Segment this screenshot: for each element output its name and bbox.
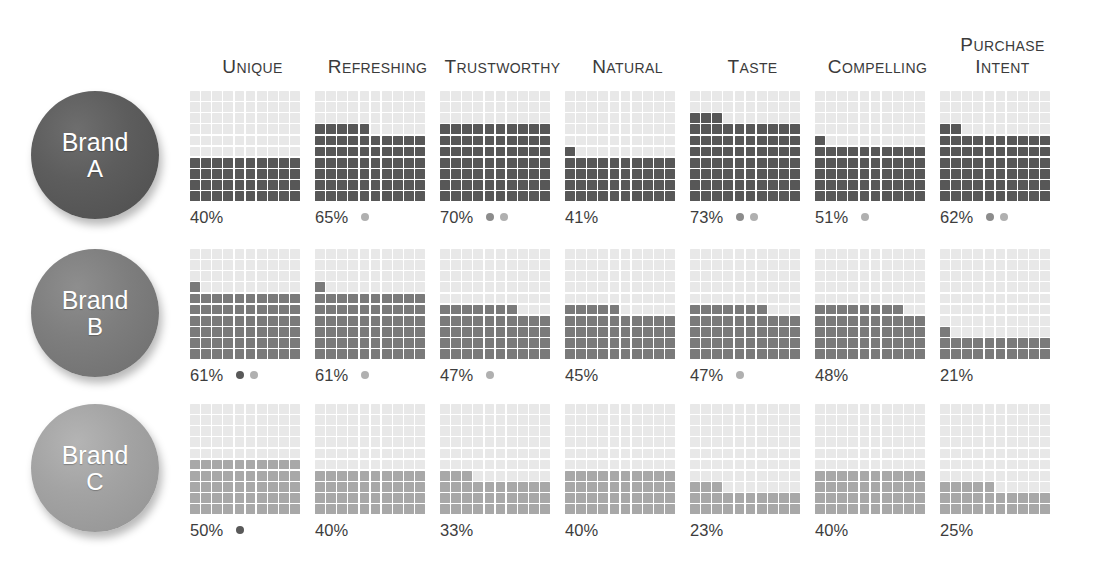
waffle-square-empty [1007,415,1017,425]
waffle-square-empty [190,136,200,146]
waffle-square-empty [665,102,675,112]
waffle-square-empty [496,404,506,414]
waffle-square-empty [882,113,892,123]
waffle-square-filled [382,191,392,201]
waffle-square-empty [473,437,483,447]
waffle-square-empty [393,113,403,123]
waffle-square-filled [393,147,403,157]
header-corner-spacer [0,0,190,85]
waffle-square-filled [576,504,586,514]
waffle-square-filled [746,158,756,168]
waffle-square-filled [360,180,370,190]
waffle-square-empty [632,91,642,101]
waffle-square-empty [565,282,575,292]
waffle-square-empty [893,426,903,436]
header-initial-cap: T [444,56,456,77]
waffle-square-empty [882,404,892,414]
waffle-square-empty [690,294,700,304]
waffle-square-empty [326,113,336,123]
waffle-square-empty [212,102,222,112]
waffle-square-filled [576,327,586,337]
waffle-square-filled [393,338,403,348]
waffle-square-empty [915,249,925,259]
waffle-square-empty [576,124,586,134]
waffle-square-empty [440,426,450,436]
waffle-square-filled [587,305,597,315]
waffle-square-empty [973,294,983,304]
waffle-square-empty [326,426,336,436]
waffle-square-filled [893,493,903,503]
waffle-square-filled [415,471,425,481]
waffle-square-filled [643,482,653,492]
waffle-square-empty [837,460,847,470]
waffle-square-filled [712,180,722,190]
waffle-square-filled [757,191,767,201]
waffle-square-filled [1007,169,1017,179]
waffle-square-filled [496,191,506,201]
waffle-square-empty [257,404,267,414]
waffle-square-empty [746,271,756,281]
brand-metrics-waffle-chart: UNIQUEREFRESHINGTRUSTWORTHYNATURALTASTEC… [0,0,1106,573]
waffle-square-empty [951,426,961,436]
waffle-square-empty [723,249,733,259]
waffle-square-empty [540,282,550,292]
waffle-square-empty [279,136,289,146]
waffle-square-empty [462,437,472,447]
waffle-square-filled [201,180,211,190]
brand-letter-text: A [87,156,103,181]
waffle-square-filled [1007,191,1017,201]
waffle-square-empty [326,282,336,292]
waffle-square-filled [826,158,836,168]
waffle-square-empty [996,294,1006,304]
waffle-square-empty [621,124,631,134]
waffle-square-empty [1040,449,1050,459]
waffle-square-empty [326,102,336,112]
waffle-square-filled [565,482,575,492]
waffle-square-empty [540,91,550,101]
waffle-square-empty [268,91,278,101]
waffle-square-filled [415,294,425,304]
waffle-square-filled [371,338,381,348]
brand-name-text: Brand [62,442,129,469]
waffle-square-empty [404,271,414,281]
waffle-square-empty [315,113,325,123]
waffle-square-filled [746,316,756,326]
waffle-square-filled [779,338,789,348]
waffle-square-filled [951,338,961,348]
waffle-grid [315,404,425,514]
waffle-square-empty [382,437,392,447]
waffle-square-empty [587,271,597,281]
significance-dot-icon [736,371,744,379]
waffle-grid [565,404,675,514]
waffle-square-empty [768,460,778,470]
waffle-square-empty [815,449,825,459]
waffle-square-filled [496,158,506,168]
waffle-square-filled [507,504,517,514]
waffle-square-empty [654,282,664,292]
waffle-square-filled [962,349,972,359]
waffle-square-empty [962,271,972,281]
waffle-square-empty [404,449,414,459]
waffle-square-filled [212,158,222,168]
waffle-square-empty [576,260,586,270]
waffle-square-empty [985,449,995,459]
waffle-square-empty [371,404,381,414]
waffle-square-filled [382,294,392,304]
waffle-square-empty [904,305,914,315]
waffle-square-empty [1007,260,1017,270]
waffle-square-filled [610,169,620,179]
waffle-square-empty [985,305,995,315]
waffle-square-empty [1007,113,1017,123]
waffle-square-empty [279,271,289,281]
waffle-square-filled [632,504,642,514]
waffle-square-empty [485,415,495,425]
waffle-square-empty [279,102,289,112]
waffle-square-filled [257,338,267,348]
waffle-cell: 21% [940,243,1065,398]
waffle-square-empty [201,437,211,447]
waffle-square-empty [485,113,495,123]
waffle-square-empty [290,113,300,123]
waffle-square-filled [1018,136,1028,146]
waffle-square-empty [326,404,336,414]
waffle-square-empty [190,437,200,447]
